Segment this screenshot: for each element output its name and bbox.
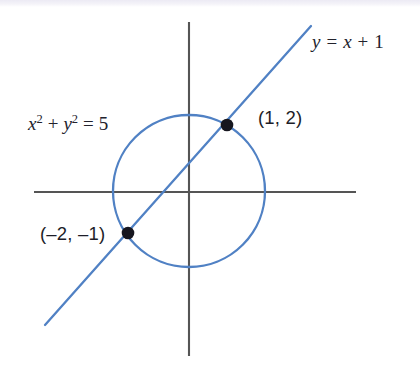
circle-eq-equals: = [83,113,94,134]
line-eq-const: 1 [374,31,384,52]
circle-eq-y-exp: 2 [72,112,78,126]
math-figure: y=x+1 x2+y2=5 (1, 2) (–2, –1) [0,0,420,370]
line-eq-equals: = [326,31,337,52]
line-equation-label: y=x+1 [310,31,384,52]
intersection-point-upper [221,119,234,132]
line-eq-plus: + [358,31,369,52]
point-upper-label: (1, 2) [258,107,302,128]
line-eq-y: y [310,31,321,52]
circle-equation-label: x2+y2=5 [27,112,108,134]
point-lower-label: (–2, –1) [40,223,105,244]
circle-eq-plus: + [48,113,59,134]
graph-svg: y=x+1 x2+y2=5 (1, 2) (–2, –1) [0,0,420,370]
circle-eq-y: y [61,113,72,134]
line-curve [45,26,311,325]
line-eq-x: x [342,31,352,52]
intersection-point-lower [122,227,135,240]
circle-eq-value: 5 [99,113,109,134]
circle-eq-x-exp: 2 [36,112,42,126]
